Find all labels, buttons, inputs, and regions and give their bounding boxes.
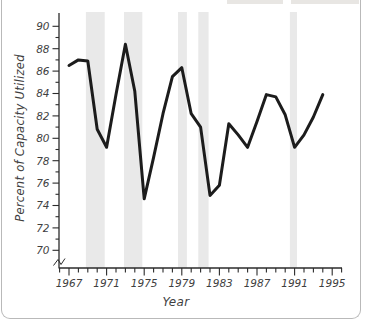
x-tick-label: 1967 — [56, 277, 83, 289]
x-tick-label: 1987 — [244, 277, 271, 289]
figure-panel: 9088868482807876747270196719711975197919… — [0, 0, 373, 325]
y-tick-label: 76 — [36, 177, 50, 189]
y-tick-label: 72 — [36, 222, 50, 234]
x-axis-label: Year — [146, 295, 206, 309]
y-axis-label: Percent of Capacity Utilized — [13, 38, 27, 238]
x-tick-label: 1983 — [206, 277, 233, 289]
y-tick-label: 74 — [36, 199, 49, 211]
y-tick-label: 82 — [36, 110, 50, 122]
x-tick-label: 1991 — [281, 277, 308, 289]
y-tick-label: 70 — [36, 244, 50, 256]
y-tick-label: 80 — [36, 132, 50, 144]
y-tick-label: 78 — [36, 155, 50, 167]
x-tick-label: 1995 — [319, 277, 346, 289]
y-tick-label: 84 — [36, 87, 49, 99]
capacity-utilization-line — [69, 44, 323, 199]
y-tick-label: 90 — [36, 20, 50, 32]
y-tick-label: 86 — [36, 65, 50, 77]
capacity-utilization-chart: 9088868482807876747270196719711975197919… — [0, 0, 373, 325]
x-tick-label: 1971 — [93, 277, 120, 289]
y-tick-label: 88 — [36, 43, 50, 55]
x-tick-label: 1979 — [168, 277, 195, 289]
recession-band — [178, 12, 187, 268]
x-tick-label: 1975 — [131, 277, 158, 289]
